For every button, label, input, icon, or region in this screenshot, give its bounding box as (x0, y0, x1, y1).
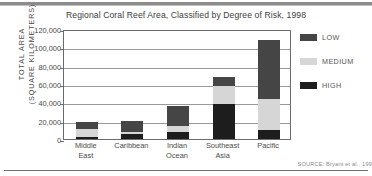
bar-stack (121, 121, 143, 139)
legend-label: MEDIUM (322, 57, 354, 66)
chart-title: Regional Coral Reef Area, Classified by … (0, 10, 372, 20)
bar-series-container (64, 31, 290, 139)
chart-legend: LOWMEDIUMHIGH (300, 33, 370, 105)
bar-segment-low (167, 106, 189, 126)
legend-swatch-icon (300, 34, 317, 41)
bar-stack (213, 77, 235, 139)
x-axis-category-label: SoutheastAsia (200, 141, 246, 160)
y-axis-tick-labels: 020,00040,00060,00080,000100,000120,000 (20, 30, 61, 140)
legend-item-high[interactable]: HIGH (300, 81, 370, 90)
bar-segment-low (213, 77, 235, 86)
y-axis-tick-label: 20,000 (38, 117, 61, 126)
top-divider-rule-thin (0, 5, 372, 6)
category-label-line: Pacific (245, 141, 291, 151)
bottom-divider-rule (4, 170, 368, 171)
y-axis-tick-label: 120,000 (34, 26, 61, 35)
bar-segment-medium (213, 86, 235, 104)
category-label-line: Indian (154, 141, 200, 151)
x-axis-category-label: Pacific (245, 141, 291, 151)
bar-stack (258, 40, 280, 139)
bar-segment-low (76, 122, 98, 129)
category-label-line: Southeast (200, 141, 246, 151)
bar-segment-high (258, 130, 280, 139)
y-axis-tick-label: 100,000 (34, 44, 61, 53)
category-label-line: Caribbean (109, 141, 155, 151)
bar-segment-high (167, 132, 189, 139)
y-axis-tick-label: 80,000 (38, 62, 61, 71)
x-axis-category-label: MiddleEast (63, 141, 109, 160)
x-axis-category-label: IndianOcean (154, 141, 200, 160)
chart-figure: Regional Coral Reef Area, Classified by … (0, 0, 372, 176)
bar-segment-medium (76, 129, 98, 137)
category-label-line: Middle (63, 141, 109, 151)
bar-stack (167, 106, 189, 139)
plot-area (63, 30, 291, 140)
bar-stack (76, 122, 98, 139)
category-label-line: Asia (200, 151, 246, 161)
x-axis-category-labels: MiddleEastCaribbeanIndianOceanSoutheastA… (63, 141, 291, 167)
bar-segment-low (258, 40, 280, 99)
bar-segment-high (121, 134, 143, 140)
legend-label: HIGH (322, 81, 342, 90)
legend-swatch-icon (300, 82, 317, 89)
y-axis-tick-label: 40,000 (38, 99, 61, 108)
category-label-line: Ocean (154, 151, 200, 161)
bar-segment-low (121, 121, 143, 132)
bar-segment-high (76, 137, 98, 139)
legend-item-low[interactable]: LOW (300, 33, 370, 42)
legend-swatch-icon (300, 58, 317, 65)
bar-segment-high (213, 104, 235, 139)
legend-item-medium[interactable]: MEDIUM (300, 57, 370, 66)
category-label-line: East (63, 151, 109, 161)
legend-label: LOW (322, 33, 340, 42)
y-axis-tick-label: 0 (57, 136, 61, 145)
bar-segment-medium (258, 99, 280, 130)
source-note: SOURCE: Bryant et al., 199 (297, 161, 372, 167)
y-axis-tick-label: 60,000 (38, 81, 61, 90)
x-axis-category-label: Caribbean (109, 141, 155, 151)
